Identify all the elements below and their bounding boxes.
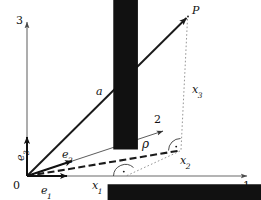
e3-arrow-accent — [14, 0, 214, 161]
origin-label: 0 — [13, 180, 20, 191]
basis-vector-e3-label: e3 — [14, 150, 29, 161]
basis-vector-e1-label: e1 — [41, 184, 52, 199]
figure-canvas: 3 1 2 0 P a ρ x1 x2 x3 e1 e2 — [0, 0, 261, 200]
e1-subscript: 1 — [47, 192, 52, 200]
e3-subscript: 3 — [22, 150, 31, 155]
